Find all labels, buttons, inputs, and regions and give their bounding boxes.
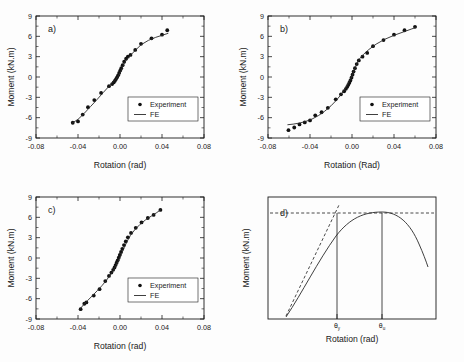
x-tick-label: 0.08 xyxy=(197,323,211,332)
experiment-point xyxy=(292,126,296,130)
y-tick-label: 6 xyxy=(260,32,264,41)
y-tick-label: 9 xyxy=(28,193,32,202)
panel-a-ylabel: Moment (kN.m) xyxy=(6,47,16,106)
y-tick-label: -3 xyxy=(26,93,32,102)
x-tick-label: -0.08 xyxy=(28,323,44,332)
x-tick-label: 0.00 xyxy=(113,323,127,332)
y-tick-label: 3 xyxy=(28,52,32,61)
panel-b-ylabel: Moment (kN.m) xyxy=(238,47,248,106)
panel-a: -0.08-0.040.000.040.08-9-6-30369 a) Rota… xyxy=(0,0,232,181)
moment-rotation-curve xyxy=(286,212,428,317)
panel-c: -0.08-0.040.000.040.08-9-6-30369 c) Rota… xyxy=(0,181,232,362)
x-tick-label: 0.04 xyxy=(155,142,169,151)
y-tick-label: 0 xyxy=(28,73,32,82)
panel-b-legend-fe: FE xyxy=(382,110,391,119)
x-tick-label: 0.08 xyxy=(197,142,211,151)
y-tick-label: 0 xyxy=(28,254,32,263)
panel-b-xlabel: Rotation (Rad) xyxy=(324,160,380,170)
y-tick-label: 6 xyxy=(28,213,32,222)
panel-c-legend-fe: FE xyxy=(150,291,159,300)
y-tick-label: -6 xyxy=(26,113,32,122)
panel-c-xlabel: Rotation (rad) xyxy=(94,341,147,351)
x-tick-label: -0.04 xyxy=(70,142,86,151)
y-tick-label: 0 xyxy=(260,73,264,82)
y-tick-label: -6 xyxy=(258,113,264,122)
x-tick-label: 0.04 xyxy=(387,142,401,151)
y-tick-label: -9 xyxy=(26,315,32,324)
panel-a-legend-fe: FE xyxy=(150,110,159,119)
panel-c-legend: Experiment FE xyxy=(128,278,198,302)
theta-u-label: θu xyxy=(379,322,386,331)
experiment-point xyxy=(165,28,169,32)
experiment-point xyxy=(287,128,291,132)
panel-c-legend-marker-icon xyxy=(138,284,142,288)
panel-c-ylabel: Moment (kN.m) xyxy=(6,228,16,287)
panel-d-ylabel: Moment (kN.m) xyxy=(241,228,251,287)
panel-a-xlabel: Rotation (rad) xyxy=(94,160,147,170)
y-tick-label: 3 xyxy=(28,233,32,242)
x-tick-label: 0.00 xyxy=(113,142,127,151)
x-tick-label: 0.04 xyxy=(155,323,169,332)
panel-b-legend-experiment: Experiment xyxy=(382,100,418,109)
panel-a-legend-experiment: Experiment xyxy=(150,100,186,109)
y-tick-label: -3 xyxy=(258,93,264,102)
y-tick-label: -3 xyxy=(26,274,32,283)
panel-b-svg: -0.08-0.040.000.040.08-9-6-30369 b) Rota… xyxy=(232,0,464,181)
panel-a-svg: -0.08-0.040.000.040.08-9-6-30369 a) Rota… xyxy=(0,0,232,181)
x-tick-label: -0.08 xyxy=(260,142,276,151)
y-tick-label: 6 xyxy=(28,32,32,41)
panel-c-svg: -0.08-0.040.000.040.08-9-6-30369 c) Rota… xyxy=(0,181,232,362)
y-tick-label: -9 xyxy=(26,134,32,143)
panel-d: θy θu d) Rotation (rad) Moment (kN.m) xyxy=(232,181,464,362)
y-tick-label: 9 xyxy=(28,12,32,21)
panel-c-legend-experiment: Experiment xyxy=(150,281,186,290)
panel-d-xlabel: Rotation (rad) xyxy=(326,334,379,344)
y-tick-label: 9 xyxy=(260,12,264,21)
theta-y-label: θy xyxy=(334,322,341,331)
y-tick-label: 3 xyxy=(260,52,264,61)
panel-b: -0.08-0.040.000.040.08-9-6-30369 b) Rota… xyxy=(232,0,464,181)
x-tick-label: -0.04 xyxy=(70,323,86,332)
panel-a-tag: a) xyxy=(48,24,56,34)
x-tick-label: 0.00 xyxy=(345,142,359,151)
x-tick-label: 0.08 xyxy=(429,142,443,151)
panel-a-legend: Experiment FE xyxy=(128,97,198,121)
panel-c-tag: c) xyxy=(48,205,56,215)
panel-b-tag: b) xyxy=(280,24,288,34)
panel-a-legend-marker-icon xyxy=(138,103,142,107)
figure-container: -0.08-0.040.000.040.08-9-6-30369 a) Rota… xyxy=(0,0,464,362)
panel-b-legend: Experiment FE xyxy=(360,97,430,121)
x-tick-label: -0.08 xyxy=(28,142,44,151)
initial-stiffness-tangent xyxy=(286,205,339,316)
y-tick-label: -9 xyxy=(258,134,264,143)
panel-d-svg: θy θu d) Rotation (rad) Moment (kN.m) xyxy=(232,181,464,362)
x-tick-label: -0.04 xyxy=(302,142,318,151)
y-tick-label: -6 xyxy=(26,294,32,303)
panel-d-tag: d) xyxy=(280,208,288,218)
panel-b-legend-marker-icon xyxy=(370,103,374,107)
